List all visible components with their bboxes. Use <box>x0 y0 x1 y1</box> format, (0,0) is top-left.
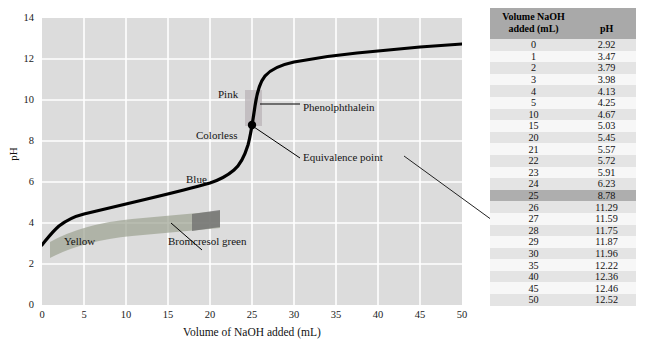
phenolphthalein-label: Phenolphthalein <box>303 102 375 113</box>
cell-ph: 8.78 <box>577 190 636 202</box>
y-tick-10: 10 <box>8 94 34 105</box>
x-tick-35: 35 <box>321 309 351 320</box>
table-row: 3011.96 <box>490 248 636 260</box>
cell-volume: 29 <box>490 236 577 248</box>
header-volume-line2: added (mL) <box>508 23 558 34</box>
cell-ph: 2.92 <box>577 39 636 51</box>
table-row: 4012.36 <box>490 271 636 283</box>
table-row: 205.45 <box>490 132 636 144</box>
cell-volume: 27 <box>490 213 577 225</box>
cell-ph: 5.03 <box>577 120 636 132</box>
x-tick-15: 15 <box>153 309 183 320</box>
cell-volume: 21 <box>490 143 577 155</box>
cell-ph: 12.52 <box>577 294 636 306</box>
x-tick-10: 10 <box>111 309 141 320</box>
y-tick-12: 12 <box>8 53 34 64</box>
x-tick-0: 0 <box>27 309 57 320</box>
x-tick-20: 20 <box>195 309 225 320</box>
table-row: 155.03 <box>490 120 636 132</box>
table-row: 54.25 <box>490 97 636 109</box>
table-row: 2811.75 <box>490 225 636 237</box>
cell-ph: 5.72 <box>577 155 636 167</box>
table-row: 2711.59 <box>490 213 636 225</box>
cell-volume: 0 <box>490 39 577 51</box>
table-header-row: Volume NaOH added (mL) pH <box>490 8 636 39</box>
cell-volume: 2 <box>490 62 577 74</box>
cell-volume: 23 <box>490 167 577 179</box>
table-row: 44.13 <box>490 85 636 97</box>
header-ph: pH <box>577 8 636 39</box>
y-tick-4: 4 <box>8 217 34 228</box>
cell-ph: 12.22 <box>577 259 636 271</box>
cell-ph: 5.91 <box>577 167 636 179</box>
bromcresol-green-label: Bromcresol green <box>168 236 247 247</box>
x-tick-50: 50 <box>447 309 477 320</box>
table-row: 02.92 <box>490 39 636 51</box>
blue-label: Blue <box>186 174 207 185</box>
cell-ph: 4.67 <box>577 109 636 121</box>
table-row: 13.47 <box>490 51 636 63</box>
x-tick-25: 25 <box>237 309 267 320</box>
titration-chart-plot-area <box>42 18 462 305</box>
yellow-label: Yellow <box>64 236 95 247</box>
cell-ph: 4.25 <box>577 97 636 109</box>
cell-volume: 24 <box>490 178 577 190</box>
cell-volume: 35 <box>490 259 577 271</box>
cell-ph: 6.23 <box>577 178 636 190</box>
y-tick-6: 6 <box>8 176 34 187</box>
cell-volume: 30 <box>490 248 577 260</box>
cell-ph: 11.96 <box>577 248 636 260</box>
cell-ph: 5.45 <box>577 132 636 144</box>
cell-volume: 26 <box>490 201 577 213</box>
cell-ph: 11.29 <box>577 201 636 213</box>
titration-curve-svg <box>42 18 462 305</box>
cell-ph: 3.47 <box>577 51 636 63</box>
table-row: 225.72 <box>490 155 636 167</box>
header-volume: Volume NaOH added (mL) <box>490 8 577 39</box>
cell-ph: 11.59 <box>577 213 636 225</box>
table-row: 235.91 <box>490 167 636 179</box>
cell-ph: 12.46 <box>577 282 636 294</box>
cell-volume: 25 <box>490 190 577 202</box>
cell-volume: 5 <box>490 97 577 109</box>
table-row: 2611.29 <box>490 201 636 213</box>
cell-ph: 5.57 <box>577 143 636 155</box>
cell-volume: 28 <box>490 225 577 237</box>
table-row: 246.23 <box>490 178 636 190</box>
equivalence-point-leader-line <box>254 127 300 158</box>
titration-figure: 14 12 10 8 6 4 2 0 0 5 10 15 20 25 30 35… <box>0 0 648 363</box>
table-row: 215.57 <box>490 143 636 155</box>
table-row: 5012.52 <box>490 294 636 306</box>
cell-ph: 3.98 <box>577 74 636 86</box>
cell-volume: 20 <box>490 132 577 144</box>
cell-volume: 50 <box>490 294 577 306</box>
x-axis-title: Volume of NaOH added (mL) <box>42 326 462 338</box>
table-row: 104.67 <box>490 109 636 121</box>
cell-volume: 3 <box>490 74 577 86</box>
colorless-label: Colorless <box>196 130 238 141</box>
cell-volume: 22 <box>490 155 577 167</box>
y-tick-14: 14 <box>8 12 34 23</box>
header-volume-line1: Volume NaOH <box>502 11 565 22</box>
x-tick-45: 45 <box>405 309 435 320</box>
cell-volume: 4 <box>490 85 577 97</box>
cell-ph: 12.36 <box>577 271 636 283</box>
x-tick-30: 30 <box>279 309 309 320</box>
x-tick-40: 40 <box>363 309 393 320</box>
cell-ph: 11.75 <box>577 225 636 237</box>
cell-volume: 40 <box>490 271 577 283</box>
table-row: 2911.87 <box>490 236 636 248</box>
cell-ph: 11.87 <box>577 236 636 248</box>
titration-data-table: Volume NaOH added (mL) pH 02.9213.4723.7… <box>490 8 636 306</box>
equivalence-point-label: Equivalence point <box>303 152 383 163</box>
cell-volume: 15 <box>490 120 577 132</box>
pink-label: Pink <box>218 89 238 100</box>
x-tick-5: 5 <box>69 309 99 320</box>
table-row: 33.98 <box>490 74 636 86</box>
table-body: 02.9213.4723.7933.9844.1354.25104.67155.… <box>490 39 636 306</box>
table-row: 3512.22 <box>490 259 636 271</box>
table-row: 258.78 <box>490 190 636 202</box>
cell-ph: 3.79 <box>577 62 636 74</box>
y-axis-title: pH <box>7 139 19 169</box>
table-row: 23.79 <box>490 62 636 74</box>
